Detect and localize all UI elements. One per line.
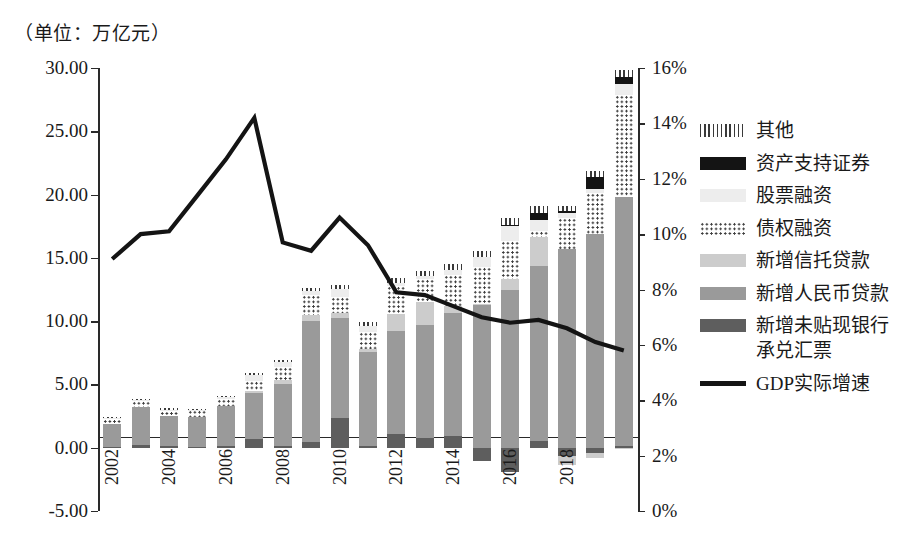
right-axis-tick-label: 6%	[652, 334, 677, 356]
legend-item-bond[interactable]: 债权融资	[700, 216, 896, 241]
x-axis-tick-label: 2014	[443, 449, 464, 485]
chart-container: （单位：万亿元） 30.0025.0020.0015.0010.005.000.…	[0, 0, 900, 533]
unit-label: （单位：万亿元）	[14, 18, 170, 45]
legend-item-other[interactable]: 其他	[700, 118, 896, 143]
left-axis-tick	[91, 258, 98, 259]
left-axis-tick	[91, 195, 98, 196]
right-axis-tick-label: 4%	[652, 389, 677, 411]
left-axis-tick-label: 15.00	[45, 247, 88, 269]
legend-swatch-gdp-icon	[700, 381, 746, 386]
legend: 其他资产支持证券股票融资债权融资新增信托贷款新增人民币贷款新增未贴现银行 承兑汇…	[700, 118, 896, 403]
legend-swatch-accept-icon	[700, 319, 746, 332]
right-axis-tick-label: 14%	[652, 112, 687, 134]
x-axis-tick-label: 2012	[386, 449, 407, 485]
right-axis-tick	[638, 68, 645, 69]
left-axis-tick-label: 10.00	[45, 310, 88, 332]
legend-label: 资产支持证券	[756, 151, 870, 176]
legend-item-abs[interactable]: 资产支持证券	[700, 151, 896, 176]
right-axis-tick-label: 16%	[652, 57, 687, 79]
right-axis-tick	[638, 234, 645, 235]
left-axis-tick-label: 5.00	[55, 373, 88, 395]
legend-item-equity[interactable]: 股票融资	[700, 183, 896, 208]
legend-label: 新增人民币贷款	[756, 281, 889, 306]
legend-swatch-bond-icon	[700, 222, 746, 235]
left-axis-tick-label: 20.00	[45, 184, 88, 206]
right-axis-tick	[638, 179, 645, 180]
left-axis-tick	[91, 448, 98, 449]
left-axis-tick-label: -5.00	[48, 500, 88, 522]
left-axis-tick-label: 25.00	[45, 120, 88, 142]
left-axis-tick	[91, 131, 98, 132]
right-axis-tick-label: 8%	[652, 279, 677, 301]
x-axis-tick-label: 2008	[273, 449, 294, 485]
x-axis-tick-label: 2002	[102, 449, 123, 485]
right-axis-tick	[638, 345, 645, 346]
right-axis-tick-label: 0%	[652, 500, 677, 522]
legend-label: 新增未贴现银行 承兑汇票	[756, 313, 889, 363]
x-axis-tick-label: 2018	[557, 449, 578, 485]
right-axis-tick-label: 10%	[652, 223, 687, 245]
legend-label: 其他	[756, 118, 794, 143]
plot-area: 200220042006200820102012201420162018	[98, 68, 638, 511]
legend-swatch-equity-icon	[700, 189, 746, 202]
x-axis-tick-label: 2016	[500, 449, 521, 485]
right-axis-tick-label: 2%	[652, 445, 677, 467]
legend-swatch-abs-icon	[700, 157, 746, 170]
gdp-line-path	[112, 118, 624, 351]
x-axis-tick-label: 2010	[330, 449, 351, 485]
legend-label: 股票融资	[756, 183, 832, 208]
left-axis-tick	[91, 511, 98, 512]
right-axis-tick	[638, 511, 645, 512]
left-axis-tick	[91, 321, 98, 322]
right-axis-tick	[638, 123, 645, 124]
x-axis-tick-label: 2006	[216, 449, 237, 485]
legend-item-trust[interactable]: 新增信托贷款	[700, 248, 896, 273]
legend-item-gdp[interactable]: GDP实际增速	[700, 371, 896, 396]
right-axis-tick-label: 12%	[652, 168, 687, 190]
left-axis-tick	[91, 68, 98, 69]
legend-label: GDP实际增速	[756, 371, 870, 396]
x-axis-tick-label: 2004	[159, 449, 180, 485]
right-axis-tick	[638, 400, 645, 401]
right-axis-tick	[638, 456, 645, 457]
gdp-line-series	[98, 68, 638, 511]
left-axis-labels: 30.0025.0020.0015.0010.005.000.00-5.00	[0, 68, 88, 511]
legend-item-accept[interactable]: 新增未贴现银行 承兑汇票	[700, 313, 896, 363]
left-axis-tick	[91, 384, 98, 385]
left-axis-tick-label: 30.00	[45, 57, 88, 79]
right-axis-tick	[638, 290, 645, 291]
legend-swatch-trust-icon	[700, 254, 746, 267]
legend-label: 新增信托贷款	[756, 248, 870, 273]
legend-item-loan[interactable]: 新增人民币贷款	[700, 281, 896, 306]
legend-swatch-other-icon	[700, 124, 746, 137]
legend-swatch-loan-icon	[700, 287, 746, 300]
left-axis-tick-label: 0.00	[55, 437, 88, 459]
legend-label: 债权融资	[756, 216, 832, 241]
